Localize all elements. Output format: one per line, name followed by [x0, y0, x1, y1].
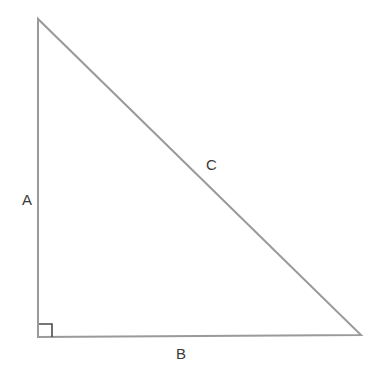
- side-b-label: B: [176, 345, 186, 362]
- right-triangle: [38, 19, 361, 337]
- side-c-label: C: [206, 156, 217, 173]
- right-angle-marker: [39, 324, 52, 337]
- triangle-diagram: A C B: [0, 0, 382, 379]
- side-a-label: A: [22, 191, 32, 208]
